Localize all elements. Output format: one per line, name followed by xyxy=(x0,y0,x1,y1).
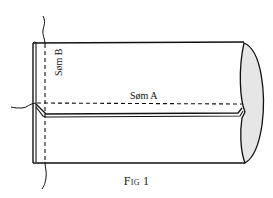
tube-top-edge xyxy=(33,42,244,43)
seam-a-thread-left xyxy=(11,103,36,108)
sewing-diagram: Søm B Søm A xyxy=(0,0,273,198)
seam-b-label: Søm B xyxy=(53,48,64,76)
seam-a-line xyxy=(37,103,242,104)
seam-a-label: Søm A xyxy=(130,90,158,101)
seam-b-thread-top xyxy=(43,16,45,44)
figure-caption: Fig 1 xyxy=(0,174,273,189)
fold-flap xyxy=(36,104,243,117)
tube-opening xyxy=(240,43,263,163)
